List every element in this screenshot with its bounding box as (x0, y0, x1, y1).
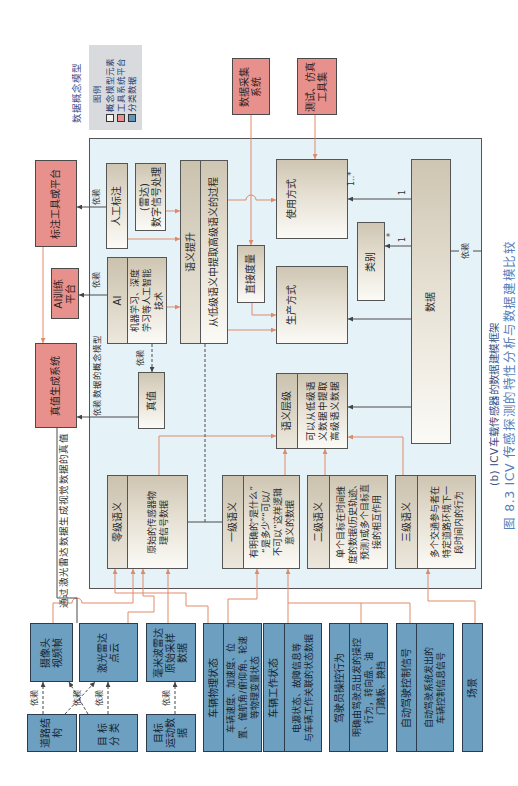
ground-truth-system: 真值生成系统 (35, 343, 77, 428)
multiplicity-data-category-source: 1 (398, 237, 408, 242)
model-label: 数据的概念模型 (92, 335, 102, 398)
scene: 场景 (462, 623, 483, 752)
level-2-header: 二级语义 (308, 476, 330, 568)
vehicle-physical-state: 车辆物理状态 车辆速度、加速度、位 置、偏航角/俯仰角、轮速 等物理变量状态 (203, 623, 262, 752)
autonomous-control-signal-body: 自动驾驶系统发出的 车辆控制信息信号 (417, 624, 453, 751)
lidar-truth-note: 通过激光雷达数据生成视觉数据的真值 (59, 433, 69, 608)
flow-driver-to-level1 (288, 603, 361, 623)
mmwave-radar-raw-data: 毫米波雷达 原始采样 数据 (146, 623, 196, 682)
level-3-body: 多个交通参与者在 特定道路环境下一 段时间内的行为 (418, 476, 475, 568)
ground-truth: 真值 (138, 372, 165, 429)
level-0-body: 原始的传感器物 理信号数据 (128, 476, 187, 568)
annotation-platform: 标注工具或平台 (35, 160, 77, 247)
multiplicity-data-usage-target: 1..* (347, 172, 357, 186)
manual-annotation: 人工标注 (106, 163, 128, 249)
semantic-level-header: 语义层级 (277, 374, 298, 448)
semantic-lift: 语义提升 从低级语义中提取高级语义的过程 (180, 160, 228, 344)
semantic-level-body: 可以从低级语 义数据中提取 高级语义数据 (298, 374, 347, 448)
object-classification: 目标分类 (79, 714, 138, 752)
level-1-semantics: 一级语义 有明确的“是什么” “是多少”“可以/ 不可以”这样逻辑 意义的数据 (222, 475, 300, 569)
ai-body: 机器学习、深度 学习等人工智能 技术 (128, 258, 166, 343)
ai-header: AI (108, 258, 128, 343)
semantic-lift-header: 语义提升 (181, 161, 201, 343)
depends-label-class-lidar: 依赖 (95, 690, 105, 706)
test-simulation-toolset: 测试、仿真 工具集 (297, 58, 337, 115)
depends-label-road-camera: 依赖 (30, 690, 40, 706)
autonomous-control-signal: 自动驾驶控制信号 自动驾驶系统发出的 车辆控制信息信号 (396, 623, 454, 752)
flow-autodrive-to-level1 (361, 603, 410, 623)
usage-mode: 使用方式 (276, 159, 348, 239)
depends-label-cross: 依赖 (73, 690, 83, 706)
flow-physical-to-level1 (228, 569, 257, 623)
ai-element: AI 机器学习、深度 学习等人工智能 技术 (107, 257, 167, 344)
camera-video-frames: 摄像头 视频帧 (30, 623, 73, 682)
autonomous-control-signal-header: 自动驾驶控制信号 (397, 624, 417, 751)
production-mode: 生产方式 (276, 266, 348, 344)
level-1-body: 有明确的“是什么” “是多少”“可以/ 不可以”这样逻辑 意义的数据 (244, 476, 299, 568)
flow-level3-to-semantic-level (348, 437, 403, 475)
driver-control-behavior-header: 驾驶员操控行为 (330, 624, 350, 751)
depends-label-data: 依赖 (461, 243, 471, 259)
level-3-semantics: 三级语义 多个交通参与者在 特定道路环境下一 段时间内的行为 (395, 475, 476, 569)
level-0-header: 零级语义 (108, 476, 128, 568)
flow-measure-to-production (252, 303, 276, 315)
depends-label-motion-radar: 依赖 (162, 690, 172, 706)
figure-caption: 图 8.3 ICV 传感探测的特性分析与数据建模比较 (499, 241, 518, 530)
depends-label-truth: 依赖 (93, 400, 103, 416)
level-1-header: 一级语义 (223, 476, 244, 568)
category: 类别 (357, 222, 385, 301)
object-motion-data: 目标 运动数据 (146, 714, 196, 752)
lidar-point-cloud: 激光雷达 点云 (79, 623, 138, 682)
flow-lidar-to-level0 (128, 569, 154, 623)
level-0-semantics: 零级语义 原始的传感器物 理信号数据 (107, 475, 188, 569)
flow-physical-to-level0 (115, 569, 208, 623)
flow-lift-to-usage (228, 195, 276, 200)
semantic-level: 语义层级 可以从低级语 义数据中提取 高级语义数据 (276, 373, 348, 449)
vehicle-working-state-header: 车辆工作状态 (264, 624, 285, 751)
depends-label-annotation: 依赖 (92, 189, 102, 205)
vehicle-physical-state-header: 车辆物理状态 (204, 624, 224, 751)
depends-label-ai-training: 依赖 (92, 272, 102, 288)
ai-training-platform: AI训练 平台 (51, 268, 79, 319)
radar-signal-processing: (雷达) 数字信号处理 (135, 163, 166, 231)
multiplicity-data-usage-source: 1 (398, 190, 408, 195)
level-2-semantics: 二级语义 单个目标在时间维 度的数据(历史轨迹、 预测)或多个目标直 接的相互作… (307, 475, 388, 569)
semantic-lift-body: 从低级语义中提取高级语义的过程 (201, 161, 227, 343)
vehicle-working-state: 车辆工作状态 电源状态、故障信息等 与车辆工作关联的状态数据 (263, 623, 322, 752)
data-collection-system: 数据采集 系统 (232, 58, 270, 115)
vehicle-working-state-body: 电源状态、故障信息等 与车辆工作关联的状态数据 (285, 624, 321, 751)
multiplicity-data-category-target: * (386, 233, 396, 237)
data: 数据 (411, 159, 451, 444)
flow-scene-to-level3 (428, 569, 475, 623)
driver-control-behavior-body: 明确由驾驶员出发的操控 行为，转向盘、油 门踏板、换挡 (350, 624, 387, 751)
flow-level0-to-semantic-level (159, 436, 276, 475)
driver-control-behavior: 驾驶员操控行为 明确由驾驶员出发的操控 行为，转向盘、油 门踏板、换挡 (329, 623, 388, 752)
level-3-header: 三级语义 (396, 476, 418, 568)
level-2-body: 单个目标在时间维 度的数据(历史轨迹、 预测)或多个目标直 接的相互作用 (330, 476, 387, 568)
vehicle-physical-state-body: 车辆速度、加速度、位 置、偏航角/俯仰角、轮速 等物理变量状态 (224, 624, 261, 751)
road-structure: 道路结构 (27, 714, 77, 752)
depends-label-ai-truth: 依赖 (136, 350, 146, 366)
direct-measure: 直接度量 (237, 245, 265, 303)
